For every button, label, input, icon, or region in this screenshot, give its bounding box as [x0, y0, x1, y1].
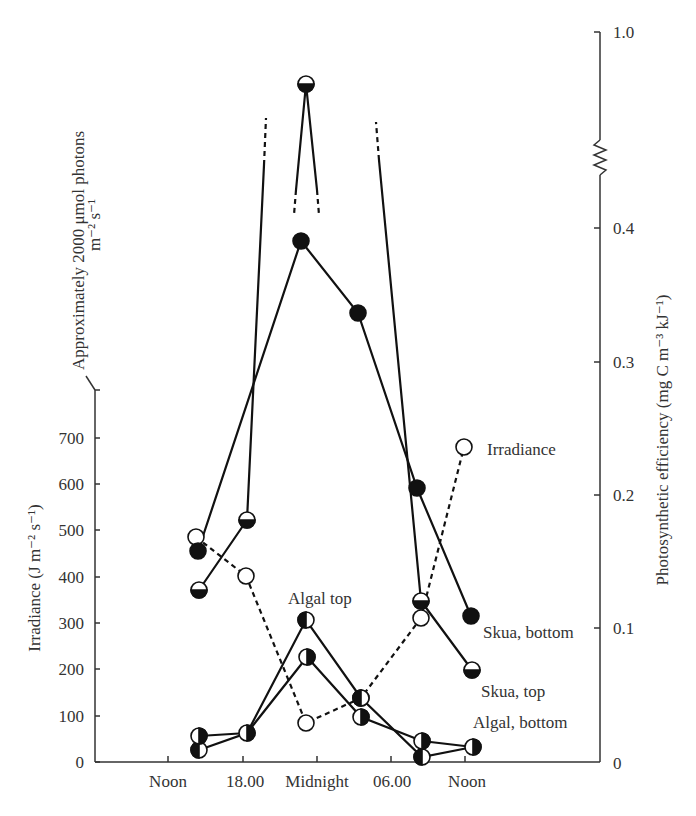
- axes: [86, 32, 606, 762]
- irradiance-photosynthesis-chart: 0 100 200 300 400 500 600 700 0 0.1 0.2 …: [0, 0, 696, 816]
- right-axis-title: Photosynthetic efficiency (mg C m⁻³ kJ⁻¹…: [653, 295, 672, 586]
- svg-text:0.3: 0.3: [613, 353, 634, 372]
- annotation-algal-top: Algal top: [288, 589, 352, 608]
- svg-text:700: 700: [59, 429, 85, 448]
- svg-text:200: 200: [59, 660, 85, 679]
- svg-text:Noon: Noon: [448, 772, 486, 791]
- annotation-skua-bottom: Skua, bottom: [483, 623, 574, 642]
- skua-top-markers: [191, 76, 480, 678]
- skua-bottom-line: [198, 241, 471, 616]
- svg-text:0.1: 0.1: [613, 619, 634, 638]
- svg-text:1.0: 1.0: [613, 23, 634, 42]
- svg-text:Midnight: Midnight: [285, 772, 349, 791]
- left-axis-title: Irradiance (J m⁻² s⁻¹): [25, 504, 44, 652]
- svg-text:0: 0: [613, 754, 622, 773]
- svg-text:400: 400: [59, 568, 85, 587]
- svg-text:0.2: 0.2: [613, 486, 634, 505]
- svg-text:100: 100: [59, 707, 85, 726]
- algal-top-markers: [191, 612, 430, 765]
- skua-top-line: [199, 165, 264, 590]
- x-tick-labels: Noon 18.00 Midnight 06.00 Noon: [149, 772, 486, 791]
- left-axis-break-label-line2: m⁻² s⁻¹: [85, 199, 104, 251]
- algal-bottom-markers: [191, 649, 481, 755]
- svg-text:500: 500: [59, 521, 85, 540]
- annotation-algal-bottom: Algal, bottom: [473, 713, 567, 732]
- svg-text:06.00: 06.00: [373, 772, 411, 791]
- right-tick-labels: 0 0.1 0.2 0.3 0.4 1.0: [613, 23, 635, 773]
- left-tick-labels: 0 100 200 300 400 500 600 700: [59, 429, 85, 772]
- svg-text:600: 600: [59, 475, 85, 494]
- svg-text:18.00: 18.00: [226, 772, 264, 791]
- annotation-irradiance: Irradiance: [487, 440, 556, 459]
- svg-text:0.4: 0.4: [613, 219, 635, 238]
- annotation-skua-top: Skua, top: [481, 682, 545, 701]
- series-annotations: Irradiance Algal top Skua, bottom Skua, …: [288, 440, 574, 732]
- series-lines: [196, 84, 473, 757]
- svg-text:300: 300: [59, 614, 85, 633]
- svg-text:0: 0: [76, 753, 85, 772]
- svg-text:Noon: Noon: [149, 772, 187, 791]
